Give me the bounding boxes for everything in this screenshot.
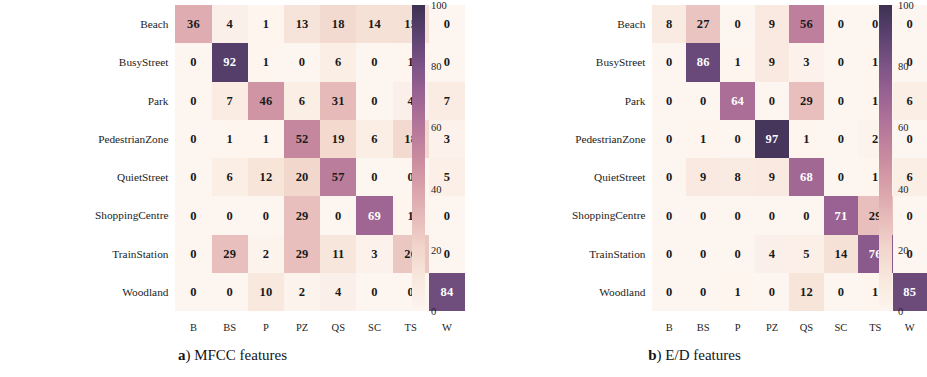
colorbar-gradient xyxy=(879,5,892,311)
heatmap-cell: 6 xyxy=(284,82,320,120)
heatmap-cell: 0 xyxy=(652,158,686,196)
heatmap-cell: 0 xyxy=(175,120,211,158)
heatmap-cell: 97 xyxy=(755,120,789,158)
heatmap-cell: 0 xyxy=(686,235,720,273)
heatmap-cell: 29 xyxy=(212,235,248,273)
heatmap-cell: 8 xyxy=(652,5,686,43)
heatmap-row: PedestrianZone010971020 xyxy=(572,120,927,158)
colorbar-tick-labels: 100806040200 xyxy=(898,5,927,311)
col-label-qs: QS xyxy=(320,311,356,341)
figure-container: Beach3641131814150BusyStreet092106010Par… xyxy=(0,0,927,377)
heatmap-cell: 9 xyxy=(755,158,789,196)
row-label-shoppingcentre: ShoppingCentre xyxy=(572,196,652,234)
row-label-busystreet: BusyStreet xyxy=(572,43,652,81)
colorbar-tick-40: 40 xyxy=(898,183,909,194)
heatmap-cell: 0 xyxy=(686,82,720,120)
row-label-quietstreet: QuietStreet xyxy=(95,158,175,196)
heatmap-cell: 29 xyxy=(284,196,320,234)
caption-ed: b) E/D features xyxy=(462,347,927,364)
row-label-pedestrianzone: PedestrianZone xyxy=(95,120,175,158)
heatmap-cell: 14 xyxy=(824,235,858,273)
colorbar-tick-100: 100 xyxy=(431,0,447,11)
col-label-ts: TS xyxy=(393,311,429,341)
heatmap-row: PedestrianZone01152196183 xyxy=(95,120,465,158)
heatmap-cell: 0 xyxy=(720,120,754,158)
confusion-matrix-ed: Beach8270956000BusyStreet086193010Park00… xyxy=(572,5,927,341)
colorbar-tick-60: 60 xyxy=(898,122,909,133)
heatmap-cell: 19 xyxy=(320,120,356,158)
heatmap-cell: 0 xyxy=(824,43,858,81)
row-label-woodland: Woodland xyxy=(95,273,175,311)
heatmap-column-label-row: BBSPPZQSSCTSW xyxy=(572,311,927,341)
heatmap-cell: 3 xyxy=(356,235,392,273)
heatmap-cell: 46 xyxy=(248,82,284,120)
heatmap-cell: 0 xyxy=(686,273,720,311)
heatmap-cell: 92 xyxy=(212,43,248,81)
colorbar-gradient xyxy=(412,5,425,311)
heatmap-row: QuietStreet06122057005 xyxy=(95,158,465,196)
heatmap-table-ed: Beach8270956000BusyStreet086193010Park00… xyxy=(572,5,927,341)
row-label-quietstreet: QuietStreet xyxy=(572,158,652,196)
heatmap-row: TrainStation029229113260 xyxy=(95,235,465,273)
heatmap-cell: 3 xyxy=(789,43,823,81)
row-label-shoppingcentre: ShoppingCentre xyxy=(95,196,175,234)
heatmap-cell: 31 xyxy=(320,82,356,120)
heatmap-cell: 29 xyxy=(284,235,320,273)
heatmap-cell: 0 xyxy=(789,196,823,234)
heatmap-row: BusyStreet086193010 xyxy=(572,43,927,81)
heatmap-row: Beach8270956000 xyxy=(572,5,927,43)
colorbar-tick-80: 80 xyxy=(898,61,909,72)
heatmap-cell: 6 xyxy=(212,158,248,196)
heatmap-cell: 1 xyxy=(789,120,823,158)
heatmap-cell: 9 xyxy=(686,158,720,196)
col-label-p: P xyxy=(720,311,754,341)
colorbar-tick-0: 0 xyxy=(431,306,436,317)
heatmap-cell: 0 xyxy=(175,196,211,234)
heatmap-cell: 20 xyxy=(284,158,320,196)
heatmap-cell: 0 xyxy=(720,235,754,273)
heatmap-cell: 0 xyxy=(175,273,211,311)
heatmap-cell: 2 xyxy=(284,273,320,311)
col-label-qs: QS xyxy=(789,311,823,341)
caption-label-b: b xyxy=(648,347,656,363)
heatmap-corner xyxy=(572,311,652,341)
heatmap-cell: 0 xyxy=(175,43,211,81)
heatmap-cell: 68 xyxy=(789,158,823,196)
confusion-matrix-mfcc: Beach3641131814150BusyStreet092106010Par… xyxy=(95,5,465,341)
heatmap-cell: 4 xyxy=(755,235,789,273)
heatmap-table-mfcc: Beach3641131814150BusyStreet092106010Par… xyxy=(95,5,465,341)
colorbar-tick-60: 60 xyxy=(431,122,442,133)
col-label-pz: PZ xyxy=(284,311,320,341)
heatmap-cell: 27 xyxy=(686,5,720,43)
col-label-bs: BS xyxy=(212,311,248,341)
heatmap-cell: 1 xyxy=(720,43,754,81)
heatmap-cell: 9 xyxy=(755,5,789,43)
caption-paren-a: ) xyxy=(185,347,194,363)
heatmap-cell: 0 xyxy=(175,235,211,273)
heatmap-cell: 0 xyxy=(248,196,284,234)
heatmap-cell: 0 xyxy=(652,196,686,234)
heatmap-body-ed: Beach8270956000BusyStreet086193010Park00… xyxy=(572,5,927,341)
row-label-busystreet: BusyStreet xyxy=(95,43,175,81)
heatmap-cell: 0 xyxy=(755,273,789,311)
heatmap-cell: 4 xyxy=(320,273,356,311)
heatmap-cell: 64 xyxy=(720,82,754,120)
heatmap-cell: 6 xyxy=(356,120,392,158)
heatmap-row: Park0064029016 xyxy=(572,82,927,120)
col-label-p: P xyxy=(248,311,284,341)
colorbar-tick-20: 20 xyxy=(431,244,442,255)
col-label-b: B xyxy=(652,311,686,341)
heatmap-cell: 52 xyxy=(284,120,320,158)
heatmap-cell: 1 xyxy=(212,120,248,158)
heatmap-cell: 0 xyxy=(720,5,754,43)
heatmap-row: ShoppingCentre0002906910 xyxy=(95,196,465,234)
colorbar-ed: 100806040200 xyxy=(879,5,927,311)
heatmap-cell: 18 xyxy=(320,5,356,43)
heatmap-cell: 86 xyxy=(686,43,720,81)
heatmap-cell: 29 xyxy=(789,82,823,120)
caption-text-a: MFCC features xyxy=(194,347,287,363)
heatmap-cell: 4 xyxy=(212,5,248,43)
heatmap-cell: 1 xyxy=(248,5,284,43)
heatmap-cell: 0 xyxy=(652,43,686,81)
heatmap-row: Beach3641131814150 xyxy=(95,5,465,43)
